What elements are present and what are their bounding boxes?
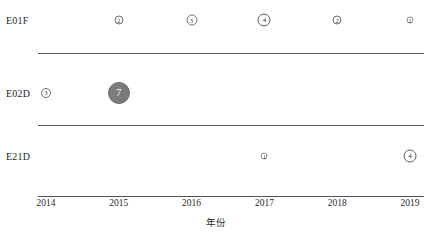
bubble-e01f-2016[interactable]: 3 bbox=[186, 15, 197, 26]
bubble-value: 3 bbox=[45, 90, 48, 96]
x-tick-2016: 2016 bbox=[182, 199, 201, 209]
bubble-value: 7 bbox=[116, 88, 121, 98]
bubble-chart: E01F E02D E21D 234213714 201420152016201… bbox=[0, 0, 431, 242]
x-tick-2017: 2017 bbox=[255, 199, 274, 209]
bubble-e01f-2019[interactable]: 1 bbox=[407, 17, 414, 24]
bubble-value: 4 bbox=[263, 17, 267, 24]
bubble-e01f-2018[interactable]: 2 bbox=[333, 16, 342, 25]
bubble-value: 3 bbox=[190, 17, 193, 23]
bubble-e21d-2019[interactable]: 4 bbox=[404, 150, 417, 163]
band-separator-upper bbox=[38, 53, 424, 54]
row-label-e02d: E02D bbox=[6, 89, 30, 99]
band-separator-lower bbox=[38, 125, 424, 126]
x-axis-title: 年份 bbox=[0, 219, 431, 229]
bubble-e01f-2015[interactable]: 2 bbox=[114, 16, 123, 25]
bubble-e21d-2017[interactable]: 1 bbox=[261, 153, 268, 160]
bubble-e01f-2017[interactable]: 4 bbox=[258, 14, 271, 27]
bubble-value: 4 bbox=[408, 153, 412, 160]
row-label-e21d: E21D bbox=[6, 152, 30, 162]
bubble-value: 1 bbox=[263, 153, 266, 159]
bubble-value: 1 bbox=[409, 17, 412, 23]
x-tick-2019: 2019 bbox=[401, 199, 420, 209]
x-axis-line bbox=[38, 196, 424, 197]
bubble-value: 2 bbox=[336, 17, 339, 23]
row-label-e01f: E01F bbox=[6, 16, 28, 26]
bubble-e02d-2014[interactable]: 3 bbox=[41, 88, 51, 98]
bubble-e02d-2015[interactable]: 7 bbox=[108, 82, 130, 104]
bubble-value: 2 bbox=[117, 17, 120, 23]
x-tick-2018: 2018 bbox=[328, 199, 347, 209]
x-tick-2015: 2015 bbox=[109, 199, 128, 209]
x-tick-2014: 2014 bbox=[37, 199, 56, 209]
